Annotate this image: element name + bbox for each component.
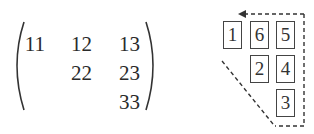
storage-box: 5 <box>276 21 295 49</box>
storage-box: 3 <box>276 89 295 117</box>
arrow-left-icon <box>238 10 246 18</box>
storage-box: 4 <box>276 55 295 83</box>
storage-box: 2 <box>250 55 269 83</box>
storage-order-diagram: 1 6 5 2 4 3 <box>0 0 314 134</box>
storage-box: 1 <box>223 21 242 49</box>
storage-box: 6 <box>250 21 269 49</box>
